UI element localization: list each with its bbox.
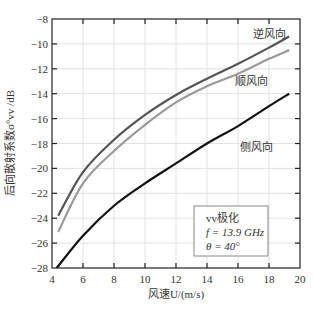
y-tick-label: −16: [31, 113, 49, 125]
series-line-0: [58, 36, 289, 215]
y-tick-label: −24: [31, 212, 49, 224]
y-tick-label: −18: [31, 138, 49, 150]
x-tick-label: 18: [264, 273, 276, 285]
y-tick-label: −8: [36, 13, 48, 25]
series-label-1: 顺风向: [235, 74, 268, 87]
x-tick-label: 4: [49, 273, 55, 285]
legend-line-angle: θ = 40°: [206, 240, 240, 252]
x-tick-label: 12: [171, 273, 182, 285]
series-label-2: 侧风向: [240, 140, 273, 153]
x-tick-label: 14: [202, 273, 214, 285]
y-tick-label: −12: [31, 63, 48, 75]
series-labels: 逆风向顺风向侧风向: [235, 27, 285, 153]
x-tick-label: 8: [111, 273, 117, 285]
y-tick-label: −14: [31, 88, 49, 100]
x-tick-label: 6: [80, 273, 86, 285]
series-label-0: 逆风向: [253, 27, 286, 40]
y-axis-label: 后向散射系数σ°vv /dB: [3, 90, 16, 196]
y-tick-label: −28: [31, 262, 49, 274]
y-tick-label: −10: [31, 38, 49, 50]
x-axis-label: 风速U/(m/s): [148, 288, 205, 301]
x-tick-label: 16: [233, 273, 245, 285]
legend-line-frequency: f = 13.9 GHz: [206, 226, 265, 238]
x-tick-label: 10: [140, 273, 152, 285]
legend-line-polarization: vv极化: [206, 211, 239, 224]
y-tick-label: −20: [31, 162, 49, 174]
legend-box: vv极化 f = 13.9 GHz θ = 40°: [194, 206, 268, 256]
y-tick-label: −26: [31, 237, 49, 249]
y-tick-label: −22: [31, 187, 48, 199]
x-tick-label: 20: [295, 273, 307, 285]
chart: 468101214161820−28−26−24−22−20−18−16−14−…: [0, 0, 314, 311]
